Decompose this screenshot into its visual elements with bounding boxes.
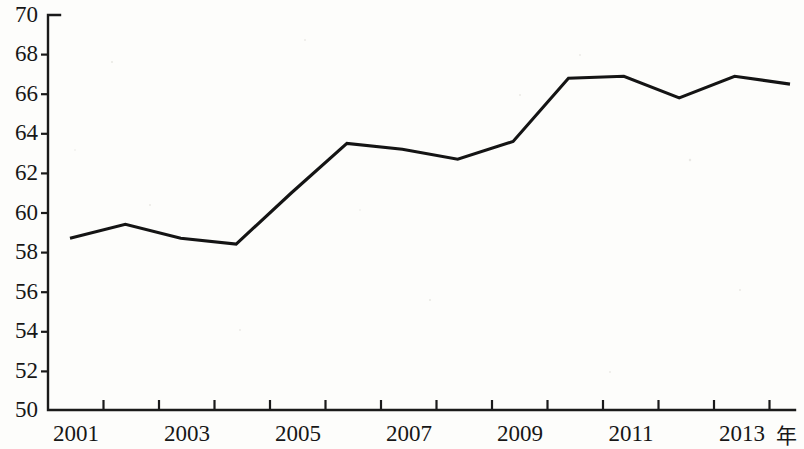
y-tick-label-64: 64	[15, 120, 39, 145]
y-tick-label-52: 52	[15, 358, 38, 383]
y-tick-label-60: 60	[15, 200, 38, 225]
x-tick-label-2011: 2011	[608, 421, 653, 446]
x-axis-unit-label: 年	[776, 424, 797, 448]
x-tick-label-2001: 2001	[53, 421, 99, 446]
y-tick-label-70: 70	[15, 2, 38, 27]
x-tick-label-2007: 2007	[386, 421, 432, 446]
data-series-line	[70, 76, 790, 244]
y-axis-tick-labels: 70 68 66 64 62 60 58 56 54 52 50	[15, 2, 39, 422]
y-tick-label-62: 62	[15, 160, 38, 185]
x-axis-tick-labels: 2001 2003 2005 2007 2009 2011 2013	[53, 421, 765, 446]
y-tick-label-50: 50	[15, 397, 38, 422]
y-tick-label-54: 54	[15, 318, 39, 343]
y-tick-label-56: 56	[15, 279, 38, 304]
x-tick-label-2009: 2009	[497, 421, 543, 446]
x-tick-label-2003: 2003	[164, 421, 210, 446]
y-tick-label-68: 68	[15, 41, 38, 66]
x-tick-label-2013: 2013	[719, 421, 765, 446]
y-tick-label-66: 66	[15, 81, 38, 106]
x-axis-ticks	[104, 400, 770, 410]
chart-axes	[48, 15, 795, 410]
chart-page: 70 68 66 64 62 60 58 56 54 52 50	[0, 0, 804, 449]
line-chart: 70 68 66 64 62 60 58 56 54 52 50	[0, 0, 804, 449]
y-tick-label-58: 58	[15, 239, 38, 264]
x-tick-label-2005: 2005	[275, 421, 321, 446]
